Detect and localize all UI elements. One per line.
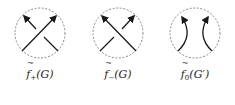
panel-f-zero	[170, 8, 220, 58]
label-argument: (G′)	[189, 68, 209, 81]
panel-f-plus	[15, 8, 65, 58]
label-f-zero: f0(G′)	[181, 68, 209, 82]
label-function: f	[26, 68, 30, 81]
panel-f-minus	[93, 8, 143, 58]
skein-diagram	[0, 0, 235, 105]
label-argument: (G)	[36, 68, 53, 81]
label-function: f	[181, 68, 185, 81]
under-strand-upper	[122, 16, 134, 29]
boundary-circle	[170, 8, 220, 58]
right-arc	[203, 17, 212, 51]
under-strand-upper	[24, 16, 36, 29]
under-strand-lower	[100, 37, 114, 51]
over-strand	[22, 16, 56, 51]
label-f-minus: f−(G)	[104, 68, 131, 82]
under-strand-lower	[44, 37, 58, 51]
label-function: f	[104, 68, 108, 81]
left-arc	[178, 17, 187, 51]
over-strand	[102, 16, 136, 51]
label-f-plus: f+(G)	[26, 68, 53, 82]
label-argument: (G)	[114, 68, 131, 81]
